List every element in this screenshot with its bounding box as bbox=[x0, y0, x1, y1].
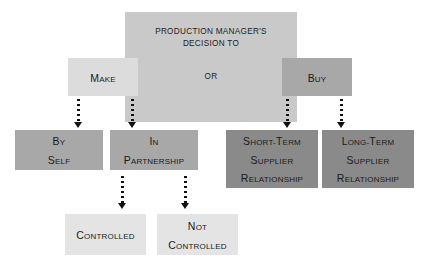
connector-make-to-in-partnership bbox=[128, 99, 137, 128]
connector-in-partnership-to-controlled bbox=[118, 176, 127, 210]
decision-diagram: PRODUCTION MANAGER'S DECISION TO OR MAKE… bbox=[0, 0, 429, 275]
node-in-partnership: IN PARTNERSHIP bbox=[110, 130, 198, 170]
connector-buy-to-short-term bbox=[283, 99, 292, 128]
node-by-self: BY SELF bbox=[15, 130, 103, 170]
node-in-partnership-label: IN PARTNERSHIP bbox=[124, 131, 185, 169]
or-label: OR bbox=[177, 72, 245, 81]
connector-buy-to-long-term bbox=[337, 99, 346, 128]
node-not-controlled: NOT CONTROLLED bbox=[157, 214, 238, 255]
node-make: MAKE bbox=[68, 58, 138, 96]
node-controlled: CONTROLLED bbox=[65, 214, 146, 255]
node-short-term-label: SHORT-TERM SUPPLIER RELATIONSHIP bbox=[241, 131, 303, 188]
node-buy: BUY bbox=[282, 58, 352, 96]
node-header-decision: PRODUCTION MANAGER'S DECISION TO bbox=[125, 12, 297, 122]
node-long-term-supplier-relationship: LONG-TERM SUPPLIER RELATIONSHIP bbox=[322, 130, 414, 188]
node-by-self-label: BY SELF bbox=[48, 131, 71, 169]
header-text-block: PRODUCTION MANAGER'S DECISION TO bbox=[155, 26, 267, 50]
node-buy-label: BUY bbox=[308, 68, 327, 87]
header-line-1: PRODUCTION MANAGER'S bbox=[155, 26, 267, 38]
node-make-label: MAKE bbox=[90, 68, 116, 87]
node-controlled-label: CONTROLLED bbox=[76, 225, 135, 244]
node-long-term-label: LONG-TERM SUPPLIER RELATIONSHIP bbox=[337, 131, 399, 188]
connector-make-to-by-self bbox=[74, 99, 83, 128]
node-not-controlled-label: NOT CONTROLLED bbox=[168, 216, 227, 254]
connector-in-partnership-to-not-controlled bbox=[181, 176, 190, 210]
node-short-term-supplier-relationship: SHORT-TERM SUPPLIER RELATIONSHIP bbox=[226, 130, 318, 188]
header-line-2: DECISION TO bbox=[155, 38, 267, 50]
